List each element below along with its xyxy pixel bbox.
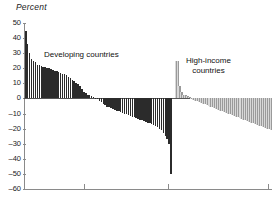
x-axis-line (24, 189, 272, 190)
y-axis-tick-label: 50 (0, 18, 21, 27)
y-axis-title: Percent (16, 2, 47, 12)
y-axis-tick-label: –10 (0, 109, 21, 118)
plot-area (24, 23, 272, 189)
y-axis-tick-label: 30 (0, 48, 21, 57)
y-axis-tick-label: 20 (0, 63, 21, 72)
series-label-high-income-line1: High-income (186, 56, 231, 66)
series-label-high-income-line2: countries (186, 66, 231, 76)
series-label-developing: Developing countries (44, 50, 119, 60)
y-axis-tick-label: –50 (0, 169, 21, 178)
y-axis-tick-label: 0 (0, 93, 21, 102)
y-axis-tick-label: –20 (0, 124, 21, 133)
bar-series-high-income (24, 23, 272, 189)
y-axis-tick-label: –30 (0, 139, 21, 148)
y-axis-tick-label: 40 (0, 33, 21, 42)
series-label-high-income: High-income countries (186, 56, 231, 75)
y-axis-tick-label: –60 (0, 184, 21, 193)
y-axis-tick-label: –40 (0, 154, 21, 163)
chart-figure: Percent 50403020100–10–20–30–40–50–60 De… (0, 0, 276, 205)
bar (270, 98, 273, 130)
y-axis-tick-label: 10 (0, 78, 21, 87)
